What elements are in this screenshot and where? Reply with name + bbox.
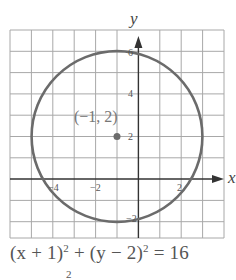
tick-y-4: 4 — [128, 88, 133, 99]
equation-part-2: + (y − 2) — [69, 242, 143, 263]
tick-y-6: 6 — [128, 47, 133, 58]
x-axis-label: x — [227, 168, 236, 187]
tick-x-neg4: −4 — [48, 182, 59, 193]
tick-y-neg2: −2 — [126, 213, 137, 224]
center-point — [114, 133, 121, 140]
y-axis-arrow-icon — [134, 36, 142, 48]
cutoff-exponent: 2 — [66, 268, 72, 280]
tick-x-2: 2 — [177, 182, 182, 193]
tick-y-2: 2 — [128, 131, 133, 142]
equation-part-3: = 16 — [149, 242, 189, 263]
equation-part-1: (x + 1) — [10, 242, 63, 263]
tick-x-neg2: −2 — [90, 182, 101, 193]
circle-equation: (x + 1)2 + (y − 2)2 = 16 — [10, 242, 189, 264]
y-axis-label: y — [128, 9, 138, 28]
center-point-label: (−1, 2) — [74, 108, 118, 126]
x-axis-arrow-icon — [212, 175, 224, 183]
